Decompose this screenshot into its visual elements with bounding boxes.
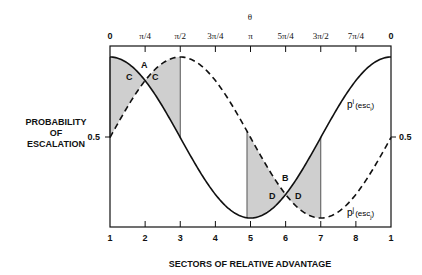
bottom-tick-label: 1 bbox=[107, 233, 112, 243]
annotation-D-left: D bbox=[269, 191, 276, 201]
annotation-D-right: D bbox=[295, 191, 302, 201]
top-tick-label: π/2 bbox=[174, 31, 186, 41]
annotation-C-right: C bbox=[152, 72, 159, 82]
theta-label: θ bbox=[248, 12, 252, 22]
y-tick-right: 0.5 bbox=[399, 132, 412, 142]
bottom-tick-label: 7 bbox=[318, 233, 323, 243]
label-p-j: pj(escj) bbox=[347, 206, 375, 220]
top-tick-label: π/4 bbox=[139, 31, 151, 41]
bottom-tick-label: 8 bbox=[353, 233, 358, 243]
bottom-tick-label: 5 bbox=[248, 233, 253, 243]
top-tick-label: 5π/4 bbox=[278, 31, 295, 41]
x-axis-title: SECTORS OF RELATIVE ADVANTAGE bbox=[169, 259, 332, 269]
top-tick-label: 0 bbox=[388, 31, 393, 41]
y-axis-title-line2: OF bbox=[6, 128, 106, 139]
y-axis-title-line1: PROBABILITY bbox=[6, 117, 106, 128]
top-tick-label: 0 bbox=[107, 31, 112, 41]
bottom-tick-label: 4 bbox=[213, 233, 218, 243]
y-axis-title: PROBABILITY OF ESCALATION bbox=[6, 117, 106, 150]
top-tick-label: 3π/2 bbox=[313, 31, 329, 41]
bottom-tick-label: 6 bbox=[283, 233, 288, 243]
bottom-tick-label: 1 bbox=[388, 233, 393, 243]
top-tick-label: π bbox=[248, 31, 253, 41]
annotation-A: A bbox=[141, 60, 148, 70]
label-p-i: pi(esci) bbox=[347, 98, 375, 112]
bottom-tick-label: 2 bbox=[143, 233, 148, 243]
bottom-tick-label: 3 bbox=[178, 233, 183, 243]
top-tick-label: 7π/4 bbox=[348, 31, 365, 41]
top-tick-label: 3π/4 bbox=[207, 31, 224, 41]
annotation-B: B bbox=[282, 173, 289, 183]
y-axis-title-line3: ESCALATION bbox=[6, 139, 106, 150]
annotation-C-left: C bbox=[126, 72, 133, 82]
